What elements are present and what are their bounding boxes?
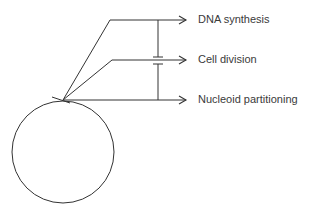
path-cell-division bbox=[63, 60, 186, 100]
label-nucleoid-partitioning: Nucleoid partitioning bbox=[198, 94, 298, 105]
label-dna-synthesis: DNA synthesis bbox=[198, 14, 270, 25]
cell-circle bbox=[12, 101, 114, 203]
diagram-canvas bbox=[0, 0, 313, 216]
label-cell-division: Cell division bbox=[198, 54, 257, 65]
